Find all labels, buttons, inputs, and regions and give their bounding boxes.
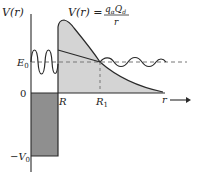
formula: V(r) = qαQd r (68, 4, 129, 27)
potential-diagram: V(r) V(r) = qαQd r E0 0 −V0 R R1 r (0, 0, 201, 177)
formula-lhs: V(r) = (68, 6, 103, 19)
r1-label: R1 (95, 96, 108, 109)
formula-denominator: r (114, 17, 119, 27)
potential-well (31, 93, 58, 156)
energy-label: E0 (16, 57, 29, 70)
formula-numerator: qαQd (105, 4, 126, 15)
zero-label: 0 (20, 88, 26, 99)
y-axis-label: V(r) (2, 6, 24, 19)
arrow-right-icon (186, 97, 191, 103)
r-label: R (58, 96, 67, 107)
neg-v0-label: −V0 (10, 151, 30, 164)
x-axis-label: r (162, 94, 168, 105)
coulomb-barrier-fill (58, 20, 163, 93)
